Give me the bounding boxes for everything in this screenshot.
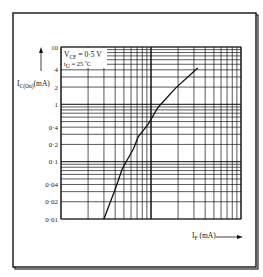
y-tick-label: 1 — [55, 101, 59, 109]
y-tick-label: 10 — [51, 44, 59, 52]
y-tick-label: 0·02 — [45, 198, 58, 206]
y-tick-label: 0·4 — [49, 124, 59, 132]
y-tick-label: 0·1 — [49, 158, 59, 166]
y-tick-label: 2 — [55, 84, 59, 92]
grid — [61, 47, 241, 219]
y-tick-label: 4 — [55, 66, 59, 74]
chart: VCE = 0·5 V tU = 25 ºC 104210·40·20·10·0… — [0, 0, 263, 277]
y-tick-label: 0·04 — [45, 181, 58, 189]
y-tick-label: 0·2 — [49, 141, 59, 149]
y-tick-label: 0·01 — [45, 216, 58, 224]
